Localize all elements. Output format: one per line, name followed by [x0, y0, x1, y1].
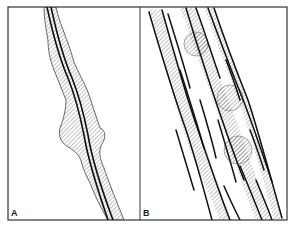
panel-b-label: B [143, 208, 150, 218]
panel-b-drawing [149, 8, 282, 220]
figure: A B [0, 0, 295, 226]
panel-a-drawing [44, 7, 124, 220]
figure-drawing [0, 0, 295, 226]
panel-b-nodule-1 [184, 32, 208, 56]
panel-b-nodule-3 [224, 136, 252, 164]
panel-a-label: A [11, 208, 18, 218]
